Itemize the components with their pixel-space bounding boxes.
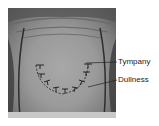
dullness-label: Dullness bbox=[118, 75, 149, 85]
tympany-label: Tympany bbox=[118, 57, 150, 67]
